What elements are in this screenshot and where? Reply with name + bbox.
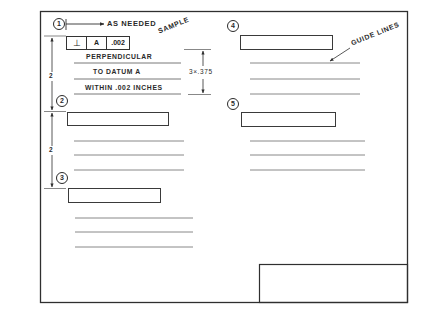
as-needed-label: AS NEEDED [107, 19, 156, 28]
fcf-tolerance-cell: .002 [106, 36, 130, 50]
title-block [260, 265, 408, 303]
callout-3: 3 [56, 172, 68, 184]
vertical-dimension-2-label: 2 [49, 146, 53, 153]
note-line-1: PERPENDICULAR [86, 53, 152, 60]
note-line-2: TO DATUM A [93, 68, 141, 75]
callout-1: 1 [53, 18, 65, 30]
fcf-symbol-cell: ⊥ [66, 36, 87, 50]
note-line-3: WITHIN .002 INCHES [85, 84, 163, 91]
title-box-2 [67, 112, 169, 126]
title-box-3 [68, 188, 161, 203]
callout-5: 5 [227, 98, 239, 110]
guide-lines-leader [330, 48, 350, 61]
drawing-sheet [0, 0, 422, 317]
callout-4: 4 [227, 20, 239, 32]
title-box-4 [240, 35, 333, 50]
vertical-dimension-1-label: 2 [49, 72, 53, 79]
fcf-datum-cell: A [86, 36, 107, 50]
perpendicularity-icon: ⊥ [73, 38, 81, 48]
spacing-dimension-label: 3×.375 [189, 68, 213, 75]
callout-2: 2 [56, 95, 68, 107]
title-box-5 [241, 112, 336, 127]
